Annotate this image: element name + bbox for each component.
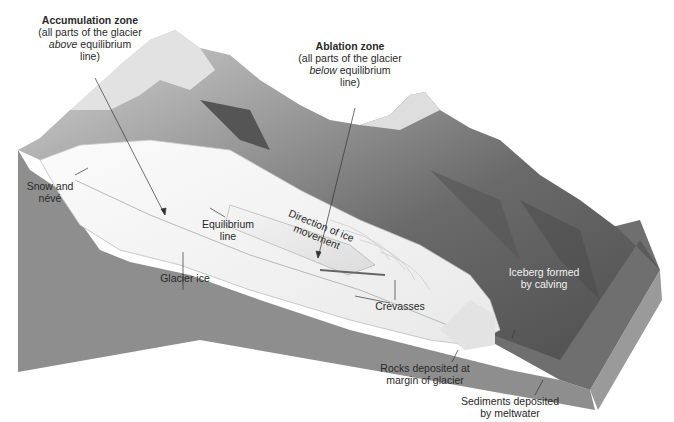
crevasses-label: Crevasses bbox=[370, 300, 430, 312]
accumulation-zone-label: Accumulation zone (all parts of the glac… bbox=[20, 14, 160, 62]
glacier-ice-label: Glacier ice bbox=[150, 272, 220, 284]
accumulation-zone-heading: Accumulation zone bbox=[20, 14, 160, 26]
rocks-deposited-label: Rocks deposited at margin of glacier bbox=[370, 362, 480, 386]
equilibrium-line-label: Equilibrium line bbox=[196, 218, 260, 242]
sediments-deposited-label: Sediments deposited by meltwater bbox=[456, 395, 564, 419]
ablation-zone-heading: Ablation zone bbox=[285, 40, 415, 52]
ablation-zone-label: Ablation zone (all parts of the glacier … bbox=[285, 40, 415, 88]
snow-neve-label: Snow and névé bbox=[22, 180, 78, 204]
iceberg-label: Iceberg formed by calving bbox=[506, 266, 582, 290]
